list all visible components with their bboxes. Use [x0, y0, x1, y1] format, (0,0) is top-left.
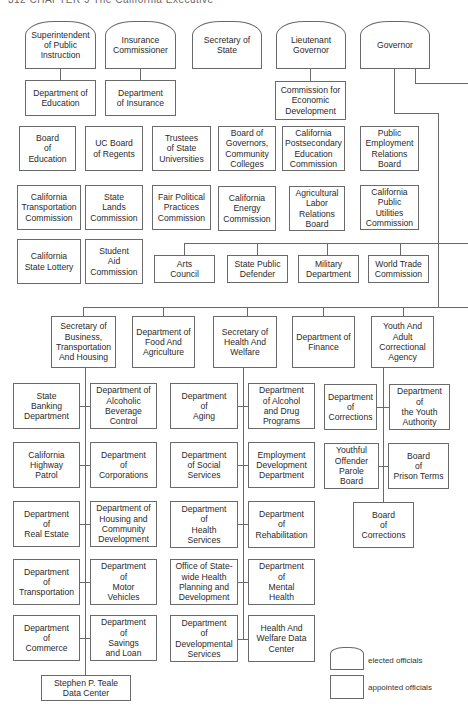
- agency-box: Department of Finance: [292, 316, 355, 368]
- connector: [163, 307, 164, 316]
- board-box: California Postsecondary Education Commi…: [282, 126, 345, 171]
- department-box: Department of Savings and Loan: [90, 615, 157, 661]
- elected-official-box: Governor: [360, 21, 430, 69]
- connector: [140, 69, 141, 80]
- connector: [238, 465, 248, 466]
- connector: [403, 307, 404, 316]
- department-box: Department of Motor Vehicles: [90, 559, 157, 605]
- elected-official-box: Secretary of State: [192, 21, 262, 69]
- department-box: Board of Corrections: [353, 502, 414, 548]
- elected-official-box: Insurance Commissioner: [105, 21, 176, 69]
- page-header: 312 CHAPTER 9 The California Executive: [8, 0, 214, 5]
- department-box: Department of Commerce: [13, 615, 80, 661]
- connector: [238, 406, 248, 407]
- department-box: Department of Social Services: [170, 442, 238, 488]
- connector: [327, 243, 328, 255]
- department-box: Department of Housing and Community Deve…: [90, 501, 157, 547]
- connector: [394, 69, 395, 113]
- board-box: California Public Utilities Commission: [360, 185, 419, 230]
- connector: [80, 524, 90, 525]
- department-box: Department of Alcoholic Beverage Control: [90, 383, 157, 429]
- department-box: Department of Alcohol and Drug Programs: [248, 383, 315, 429]
- department-box: Health And Welfare Data Center: [248, 615, 315, 662]
- board-box: Agricultural Labor Relations Board: [289, 186, 345, 231]
- department-box: Department of Insurance: [105, 80, 176, 116]
- department-box: Department of the Youth Authority: [389, 384, 450, 430]
- agency-box: Youth And Adult Correctional Agency: [371, 316, 434, 368]
- connector: [238, 524, 248, 525]
- elected-official-box: Lieutenant Governor: [276, 21, 346, 69]
- connector: [60, 69, 61, 80]
- connector: [415, 83, 468, 84]
- department-box: Department of Real Estate: [13, 501, 80, 547]
- board-box: Fair Political Practices Commission: [152, 185, 211, 230]
- connector: [184, 243, 185, 255]
- agency-box: Secretary of Health And Welfare: [213, 316, 277, 368]
- department-box: Stephen P. Teale Data Center: [41, 675, 131, 701]
- agency-box: Secretary of Business, Transportation An…: [51, 316, 116, 368]
- connector: [80, 465, 90, 466]
- connector: [238, 582, 248, 583]
- board-box: Public Employment Relations Board: [360, 126, 419, 171]
- department-box: Employment Development Department: [248, 442, 315, 488]
- connector: [83, 307, 468, 308]
- agency-box: Department of Food And Agriculture: [132, 316, 195, 368]
- board-box: Student Aid Commission: [85, 239, 143, 284]
- department-box: Department of Transportation: [13, 559, 80, 605]
- connector: [83, 307, 84, 316]
- board-box: California Energy Commission: [218, 186, 276, 231]
- governor-unit-box: Military Department: [298, 255, 359, 283]
- connector: [80, 406, 90, 407]
- legend-elected-shape: [330, 647, 364, 670]
- department-box: Office of State- wide Health Planning an…: [170, 559, 238, 605]
- department-box: Department of Mental Health: [248, 559, 315, 605]
- connector: [243, 368, 244, 639]
- department-box: California Highway Patrol: [13, 442, 80, 488]
- connector: [310, 69, 311, 81]
- board-box: Board of Governors, Community Colleges: [218, 126, 276, 171]
- board-box: UC Board of Regents: [85, 126, 143, 171]
- connector: [383, 368, 384, 502]
- board-box: Trustees of State Universities: [152, 126, 211, 171]
- connector: [80, 638, 90, 639]
- connector: [379, 466, 388, 467]
- department-box: Youthful Offender Parole Board: [324, 443, 379, 489]
- governor-unit-box: State Public Defender: [227, 255, 288, 283]
- legend-appointed-shape: [330, 675, 364, 699]
- department-box: Department of Corporations: [90, 442, 157, 488]
- department-box: Department of Aging: [170, 383, 238, 429]
- elected-official-box: Superintendent of Public Instruction: [25, 21, 96, 69]
- department-box: Department of Developmental Services: [170, 615, 238, 662]
- connector: [80, 582, 90, 583]
- governor-unit-box: Arts Council: [154, 255, 215, 283]
- connector: [85, 368, 86, 675]
- connector: [377, 407, 389, 408]
- board-box: State Lands Commission: [85, 185, 143, 230]
- connector: [438, 113, 439, 307]
- connector: [415, 69, 416, 83]
- connector: [394, 113, 439, 114]
- connector: [400, 243, 401, 255]
- department-box: Department of Education: [25, 80, 96, 116]
- board-box: California Transportation Commission: [17, 185, 81, 230]
- department-box: Commission for Economic Development: [275, 81, 346, 120]
- department-box: Department of Health Services: [170, 501, 238, 548]
- board-box: Board of Education: [19, 126, 76, 171]
- connector: [247, 307, 248, 316]
- connector: [323, 307, 324, 316]
- department-box: Department of Corrections: [324, 384, 377, 430]
- legend-elected-label: elected officials: [368, 656, 423, 665]
- governor-unit-box: World Trade Commission: [368, 255, 429, 283]
- department-box: State Banking Department: [13, 383, 80, 429]
- connector: [257, 243, 258, 255]
- department-box: Department of Rehabilitation: [248, 501, 315, 548]
- connector: [238, 639, 248, 640]
- legend-appointed-label: appointed officials: [368, 683, 432, 692]
- connector: [184, 243, 468, 244]
- department-box: Board of Prison Terms: [388, 443, 449, 489]
- board-box: California State Lottery: [17, 239, 81, 284]
